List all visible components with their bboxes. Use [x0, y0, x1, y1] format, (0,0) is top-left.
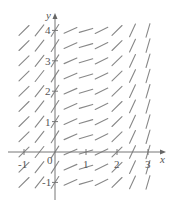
slope-segment [64, 164, 77, 170]
slope-segment [19, 41, 29, 51]
slope-field-plot: y x 0 -1123-11234 [0, 0, 174, 212]
slope-segment [35, 116, 44, 127]
slope-segment [79, 180, 92, 184]
slope-segment [19, 177, 29, 187]
slope-segment [112, 132, 122, 142]
slope-segment [64, 28, 77, 34]
slope-segment [64, 58, 77, 64]
y-axis-arrow-icon [53, 13, 58, 19]
slope-segment [112, 101, 122, 111]
y-tick-label: 1 [45, 116, 51, 128]
slope-segment [146, 115, 150, 128]
x-axis-label: x [159, 153, 165, 165]
slope-segment [146, 39, 150, 52]
slope-segment [79, 59, 92, 63]
x-tick-label: -1 [18, 158, 27, 170]
origin-label: 0 [47, 154, 53, 166]
slope-segment [95, 119, 108, 125]
slope-segment [146, 130, 150, 143]
x-tick-label: 1 [83, 158, 89, 170]
slope-segment [79, 135, 92, 139]
slope-segment [79, 28, 92, 32]
slope-segment [112, 41, 122, 51]
slope-segment [130, 115, 136, 128]
slope-segment [35, 55, 44, 66]
slope-segment [112, 177, 122, 187]
slope-segment [35, 101, 44, 112]
slope-segment [130, 161, 136, 174]
slope-segment [112, 25, 122, 35]
slope-segment [19, 86, 29, 96]
slope-segment [130, 85, 136, 98]
slope-segment [19, 101, 29, 111]
slope-segment [146, 54, 150, 67]
slope-segment [79, 44, 92, 48]
y-tick-label: -1 [42, 176, 51, 188]
slope-segment [130, 54, 136, 67]
slope-segment [35, 86, 44, 97]
slope-segment [112, 71, 122, 81]
slope-segment [79, 89, 92, 93]
slope-segment [79, 104, 92, 108]
slope-segment [95, 88, 108, 94]
slope-segment [19, 71, 29, 81]
x-tick-label: 2 [114, 158, 120, 170]
slope-segment [35, 162, 44, 173]
slope-segment [112, 56, 122, 66]
slope-segment [64, 43, 77, 49]
x-tick-label: 3 [145, 158, 151, 170]
slope-segment [64, 134, 77, 140]
y-axis-label: y [45, 9, 51, 21]
slope-segment [64, 88, 77, 94]
slope-segment [19, 132, 29, 142]
slope-segment [95, 164, 108, 170]
slope-segment [19, 25, 29, 35]
slope-segment [95, 73, 108, 79]
slope-segment [112, 86, 122, 96]
y-tick-label: 2 [45, 85, 51, 97]
slope-segment [79, 74, 92, 78]
slope-segment [64, 104, 77, 110]
slope-segment [35, 25, 44, 36]
slope-segment [35, 70, 44, 81]
slope-segment [130, 176, 136, 189]
slope-segment [35, 40, 44, 51]
slope-segment [130, 39, 136, 52]
slope-segment [35, 131, 44, 142]
slope-segment [95, 134, 108, 140]
slope-segment [146, 84, 150, 97]
slope-segment [19, 56, 29, 66]
slope-segment [64, 119, 77, 125]
slope-segment [146, 100, 150, 113]
slope-segment [130, 100, 136, 113]
slope-segment [130, 24, 136, 37]
slope-segment [95, 179, 108, 185]
slope-segment [146, 69, 150, 82]
slope-segment [95, 27, 108, 33]
y-tick-label: 4 [45, 24, 51, 36]
slope-segment [130, 130, 136, 143]
slope-segment [95, 43, 108, 49]
slope-segment [64, 180, 77, 186]
slope-segment [146, 24, 150, 37]
slope-segment [130, 70, 136, 83]
y-tick-label: 3 [45, 55, 51, 67]
slope-segment [19, 117, 29, 127]
slope-segment [64, 73, 77, 79]
slope-segment [79, 120, 92, 124]
slope-segment [95, 103, 108, 109]
slope-segment [112, 117, 122, 127]
slope-segment [95, 58, 108, 64]
slope-segment [146, 176, 150, 189]
